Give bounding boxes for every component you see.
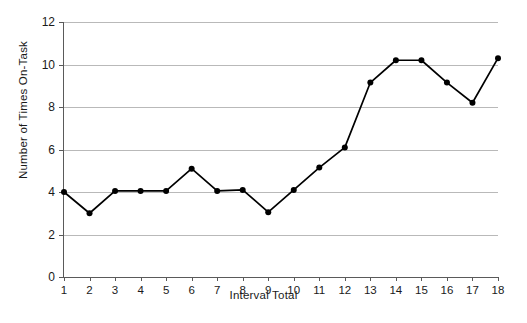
data-point (495, 55, 501, 61)
x-tick-mark (498, 277, 499, 281)
data-point (393, 57, 399, 63)
data-point (189, 166, 195, 172)
y-tick-label: 4 (48, 185, 55, 199)
line-chart: Number of Times On-Task 024681012 123456… (0, 0, 527, 323)
x-tick-mark (90, 277, 91, 281)
x-tick-mark (64, 277, 65, 281)
y-axis-title: Number of Times On-Task (17, 25, 29, 195)
y-tick-label: 0 (48, 270, 55, 284)
x-tick-mark (115, 277, 116, 281)
data-point (444, 80, 450, 86)
x-axis-title: Interval Total (0, 289, 527, 301)
y-tick-label: 10 (42, 58, 55, 72)
data-point (61, 189, 67, 195)
x-tick-mark (268, 277, 269, 281)
data-point (367, 80, 373, 86)
x-tick-mark (319, 277, 320, 281)
y-tick-label: 2 (48, 228, 55, 242)
x-tick-mark (421, 277, 422, 281)
x-tick-mark (166, 277, 167, 281)
y-tick-label: 8 (48, 100, 55, 114)
x-tick-mark (141, 277, 142, 281)
x-axis-line (63, 277, 498, 278)
x-tick-mark (396, 277, 397, 281)
data-point (214, 188, 220, 194)
x-tick-mark (192, 277, 193, 281)
data-series (64, 22, 498, 277)
data-point (138, 188, 144, 194)
data-point (418, 57, 424, 63)
x-tick-mark (472, 277, 473, 281)
data-point (112, 188, 118, 194)
x-tick-mark (217, 277, 218, 281)
data-point (469, 100, 475, 106)
series-line (64, 58, 498, 213)
x-tick-mark (294, 277, 295, 281)
y-tick-label: 6 (48, 143, 55, 157)
x-tick-mark (370, 277, 371, 281)
x-tick-mark (345, 277, 346, 281)
data-point (316, 165, 322, 171)
data-point (265, 209, 271, 215)
data-point (342, 144, 348, 150)
y-tick-label: 12 (42, 15, 55, 29)
data-point (240, 187, 246, 193)
data-point (163, 188, 169, 194)
plot-area: 024681012 123456789101112131415161718 (64, 22, 498, 277)
x-tick-mark (243, 277, 244, 281)
x-tick-mark (447, 277, 448, 281)
data-point (87, 210, 93, 216)
data-point (291, 187, 297, 193)
